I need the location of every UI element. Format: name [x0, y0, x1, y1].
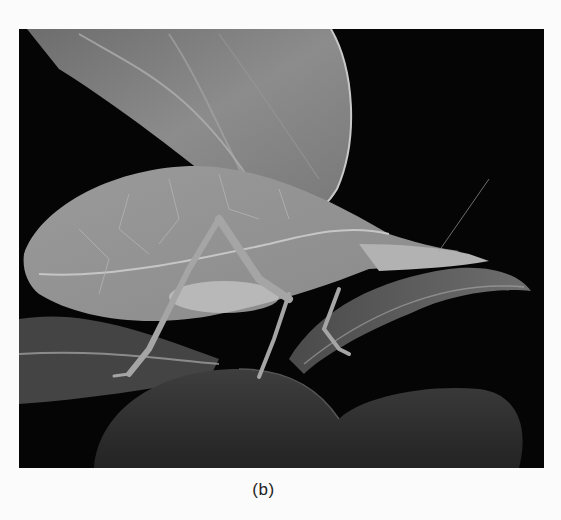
figure: (b) [0, 0, 561, 520]
katydid-photo [19, 29, 544, 468]
katydid-illustration [19, 29, 544, 468]
figure-caption: (b) [0, 480, 527, 500]
